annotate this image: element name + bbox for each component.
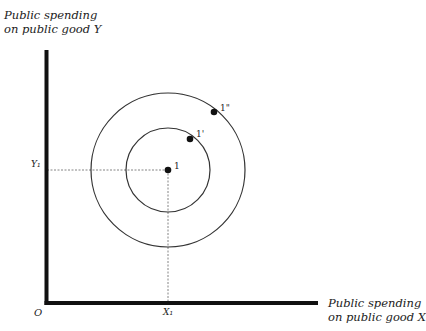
point-1-double-prime-label: 1": [220, 103, 230, 113]
point-1-prime: [187, 136, 194, 143]
point-1-label: 1: [174, 161, 180, 171]
point-1-prime-label: 1': [196, 129, 204, 139]
ideal-point-1: [165, 167, 172, 174]
x1-tick-label: X₁: [163, 307, 173, 317]
origin-label: O: [34, 307, 42, 318]
point-1-double-prime: [211, 109, 218, 116]
y1-tick-label: Y₁: [31, 159, 41, 169]
